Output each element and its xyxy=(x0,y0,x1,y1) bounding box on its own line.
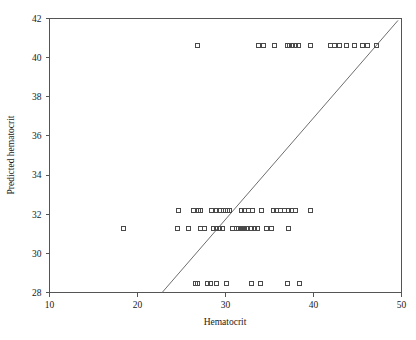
data-point-marker xyxy=(260,208,264,212)
identity-reference-line xyxy=(162,20,398,292)
data-point-marker xyxy=(269,227,273,231)
x-tick-label: 20 xyxy=(133,300,143,310)
data-point-marker xyxy=(192,208,196,212)
scatter-chart-figure: 2830323436384042 1020304050 Hematocrit P… xyxy=(0,0,416,340)
data-point-marker xyxy=(361,44,365,48)
y-tick-label: 38 xyxy=(32,92,42,102)
data-point-marker xyxy=(297,282,301,286)
data-point-marker xyxy=(333,44,337,48)
data-point-marker xyxy=(251,208,255,212)
data-point-marker xyxy=(217,208,221,212)
data-point-marker xyxy=(224,282,228,286)
data-point-marker xyxy=(215,282,219,286)
data-point-marker xyxy=(288,44,292,48)
y-tick-label: 32 xyxy=(32,210,42,220)
data-point-marker xyxy=(338,44,342,48)
y-axis-title: Predicted hematocrit xyxy=(6,115,16,194)
x-axis-title: Hematocrit xyxy=(204,317,247,327)
y-tick-label: 34 xyxy=(32,170,42,180)
data-point-marker xyxy=(264,227,268,231)
data-point-marker xyxy=(308,208,312,212)
x-axis-ticks: 1020304050 xyxy=(45,293,407,310)
data-point-marker xyxy=(215,208,219,212)
data-point-marker xyxy=(255,227,259,231)
identity-line xyxy=(162,20,398,292)
data-point-marker xyxy=(199,208,203,212)
plot-frame xyxy=(50,18,402,293)
data-point-marker xyxy=(273,44,277,48)
data-point-marker xyxy=(290,44,294,48)
data-point-marker xyxy=(250,227,254,231)
data-point-marker xyxy=(249,282,253,286)
data-point-marker xyxy=(257,44,261,48)
y-tick-label: 36 xyxy=(32,131,42,141)
x-tick-label: 40 xyxy=(309,300,319,310)
y-tick-label: 28 xyxy=(32,288,42,298)
data-point-series xyxy=(121,44,379,286)
data-point-marker xyxy=(285,44,289,48)
data-point-marker xyxy=(365,44,369,48)
data-point-marker xyxy=(308,44,312,48)
y-tick-label: 30 xyxy=(32,249,42,259)
data-point-marker xyxy=(237,227,241,231)
data-point-marker xyxy=(176,208,180,212)
y-tick-label: 40 xyxy=(32,53,42,63)
data-point-marker xyxy=(195,44,199,48)
y-tick-label: 42 xyxy=(32,14,42,24)
data-point-marker xyxy=(294,208,298,212)
x-tick-label: 10 xyxy=(45,300,55,310)
data-point-marker xyxy=(121,227,125,231)
data-point-marker xyxy=(220,227,224,231)
data-point-marker xyxy=(286,227,290,231)
data-point-marker xyxy=(285,282,289,286)
data-point-marker xyxy=(253,227,257,231)
data-point-marker xyxy=(328,44,332,48)
data-point-marker xyxy=(187,227,191,231)
x-tick-label: 30 xyxy=(221,300,231,310)
data-point-marker xyxy=(261,44,265,48)
data-point-marker xyxy=(196,208,200,212)
data-point-marker xyxy=(175,227,179,231)
x-tick-label: 50 xyxy=(397,300,407,310)
plot-canvas: 2830323436384042 1020304050 Hematocrit P… xyxy=(0,0,416,340)
data-point-marker xyxy=(352,44,356,48)
y-axis-ticks: 2830323436384042 xyxy=(32,14,50,298)
data-point-marker xyxy=(345,44,349,48)
data-point-marker xyxy=(209,208,213,212)
data-point-marker xyxy=(259,282,263,286)
